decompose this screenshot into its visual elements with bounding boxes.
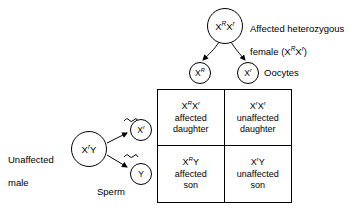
father-genotype-text: XrY <box>82 144 97 155</box>
father-genotype-circle: XrY <box>71 131 107 167</box>
oocyte-1-genotype-text: XR <box>195 68 205 78</box>
punnett-cell-top-right-description: unaffected daughter <box>237 113 279 135</box>
oocyte-2-genotype-text: Xr <box>244 68 252 78</box>
punnett-cell-bottom-right-description: unaffected son <box>237 169 279 191</box>
punnett-cell-bottom-left-description: affected son <box>175 169 207 191</box>
punnett-cell-top-left: XRXr affected daughter <box>158 90 225 146</box>
father-label-line1: Unaffected <box>8 154 54 166</box>
punnett-cell-bottom-left-genotype: XRY <box>183 157 199 168</box>
punnett-cell-top-right: XrXr unaffected daughter <box>225 90 292 146</box>
sperm-circle-y: Y <box>130 163 152 185</box>
punnett-cell-bottom-right: XrY unaffected son <box>225 146 292 202</box>
mother-genotype-circle: XRXr <box>207 8 243 44</box>
punnett-cell-bottom-left: XRY affected son <box>158 146 225 202</box>
mother-genotype-text: XRXr <box>215 21 235 32</box>
genetics-punnett-square-diagram: XRXr Affected heterozygous female (XRXr)… <box>0 0 361 222</box>
sperm-1-genotype-text: Xr <box>137 125 145 135</box>
oocyte-circle-xr-recessive: Xr <box>237 62 259 84</box>
sperm-label: Sperm <box>97 186 125 198</box>
sperm-2-genotype-text: Y <box>138 169 144 179</box>
father-label-line2: male <box>8 177 54 189</box>
punnett-cell-top-right-genotype: XrXr <box>250 101 266 112</box>
mother-label: Affected heterozygous female (XRXr) <box>250 11 344 69</box>
punnett-cell-top-left-genotype: XRXr <box>182 101 201 112</box>
oocyte-circle-xr-dominant: XR <box>189 62 211 84</box>
punnett-square-grid: XRXr affected daughter XrXr unaffected d… <box>157 89 292 203</box>
mother-label-line1: Affected heterozygous <box>250 23 344 35</box>
punnett-cell-top-left-description: affected daughter <box>173 113 209 135</box>
sperm-circle-x-recessive: Xr <box>130 119 152 141</box>
oocytes-label: Oocytes <box>264 67 299 79</box>
mother-label-line2: female (XRXr) <box>250 46 344 58</box>
punnett-cell-bottom-right-genotype: XrY <box>251 157 265 168</box>
father-label: Unaffected male <box>8 142 54 200</box>
